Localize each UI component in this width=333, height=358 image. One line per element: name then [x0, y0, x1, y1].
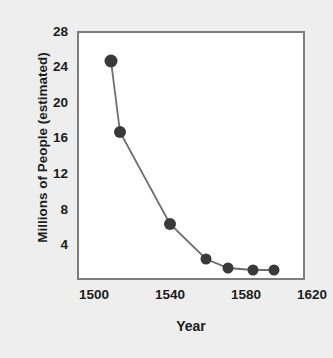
- y-tick-label: 16: [26, 130, 68, 145]
- y-tick-label: 20: [26, 95, 68, 110]
- data-series-line: [77, 31, 305, 280]
- data-point: [248, 265, 259, 276]
- chart-figure: Millions of People (estimated) 28 24 20 …: [0, 0, 333, 358]
- data-point: [201, 254, 212, 265]
- x-tick-label: 1540: [140, 287, 200, 302]
- x-tick-label: 1620: [282, 287, 333, 302]
- y-tick-label: 8: [26, 202, 68, 217]
- data-point: [164, 218, 176, 230]
- x-tick-label: 1580: [216, 287, 276, 302]
- y-tick-label: 28: [26, 24, 68, 39]
- data-point: [269, 265, 280, 276]
- y-tick-label: 24: [26, 59, 68, 74]
- data-point: [223, 263, 234, 274]
- y-tick-label: 4: [26, 237, 68, 252]
- series-line: [111, 61, 274, 270]
- x-tick-label: 1500: [64, 287, 124, 302]
- data-point: [114, 126, 126, 138]
- y-tick-label: 12: [26, 166, 68, 181]
- data-point: [105, 55, 118, 68]
- x-axis-title: Year: [77, 318, 305, 334]
